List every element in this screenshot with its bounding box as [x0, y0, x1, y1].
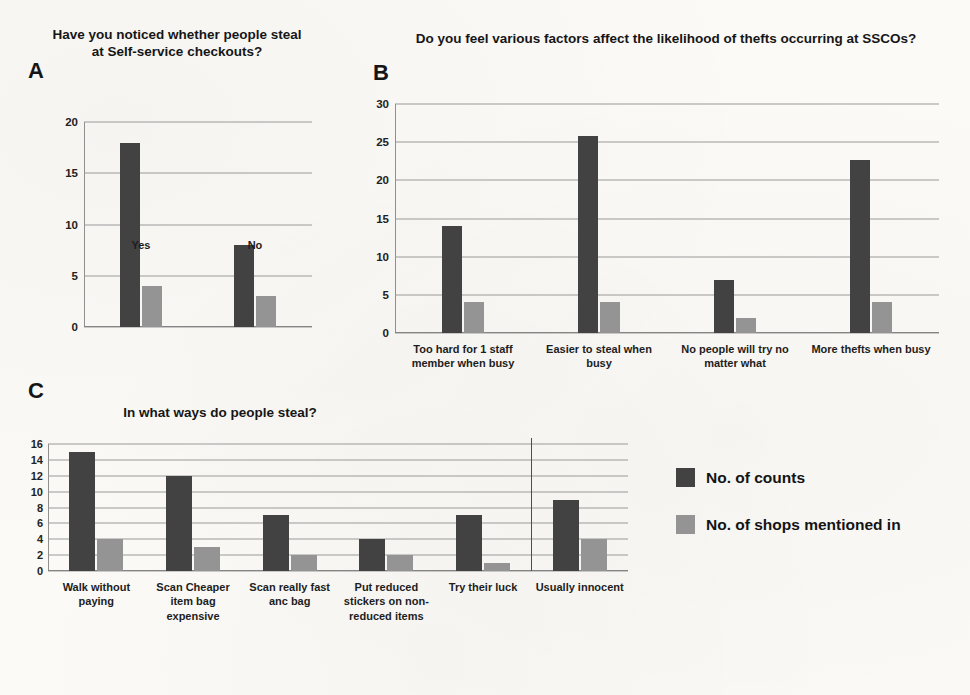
bar-group [241, 444, 338, 571]
chart-panel-b: B Do you feel various factors affect the… [355, 30, 970, 47]
bar-group [435, 444, 532, 571]
bar [736, 318, 756, 333]
category-divider [531, 438, 532, 571]
bar [714, 280, 734, 333]
panel-a-plot-area: 05101520 [84, 122, 312, 327]
y-axis-tick-label: 15 [376, 213, 395, 225]
legend-label: No. of counts [706, 469, 805, 487]
bar-group [531, 444, 628, 571]
chart-panel-c: C In what ways do people steal? 02468101… [0, 378, 700, 421]
panel-c-plot-area: 0246810121416 [48, 444, 628, 571]
bar-group [84, 122, 198, 327]
bar [600, 302, 620, 333]
bar [142, 286, 162, 327]
y-axis-tick-label: 10 [376, 251, 395, 263]
y-axis-tick-label: 2 [37, 549, 48, 561]
panel-letter-a: A [28, 58, 44, 84]
bar-group [48, 444, 145, 571]
bar [166, 476, 192, 571]
y-axis-tick-label: 10 [31, 486, 48, 498]
bar [194, 547, 220, 571]
x-axis-tick-label: Try their luck [435, 580, 532, 623]
chart-panel-a: A Have you noticed whether people steal … [0, 26, 350, 61]
x-axis-tick-label: Put reduced stickers on non-reduced item… [338, 580, 435, 623]
bar [872, 302, 892, 333]
bar [578, 136, 598, 333]
x-axis-tick-label: No people will try no matter what [667, 342, 803, 371]
x-axis-tick-label: Too hard for 1 staff member when busy [395, 342, 531, 371]
panel-letter-c: C [28, 378, 44, 404]
panel-a-bars [84, 122, 312, 327]
y-axis-tick-label: 12 [31, 470, 48, 482]
y-axis-tick-label: 5 [383, 289, 395, 301]
bar [442, 226, 462, 333]
x-axis-tick-label: Walk without paying [48, 580, 145, 623]
y-axis-tick-label: 25 [376, 136, 395, 148]
y-axis-tick-label: 6 [37, 517, 48, 529]
legend-swatch-dark [676, 468, 695, 487]
bar [120, 143, 140, 328]
legend-item: No. of shops mentioned in [676, 515, 966, 534]
bar-group [531, 104, 667, 333]
bar [97, 539, 123, 571]
bar [359, 539, 385, 571]
y-axis-tick-label: 0 [37, 565, 48, 577]
panel-a-title: Have you noticed whether people steal at… [46, 26, 308, 61]
y-axis-tick-label: 16 [31, 438, 48, 450]
chart-legend: No. of countsNo. of shops mentioned in [676, 468, 966, 562]
legend-label: No. of shops mentioned in [706, 516, 901, 534]
bar [581, 539, 607, 571]
y-axis-tick-label: 4 [37, 533, 48, 545]
y-axis-tick-label: 8 [37, 502, 48, 514]
x-axis-tick-label: Scan Cheaper item bag expensive [145, 580, 242, 623]
bar-group [338, 444, 435, 571]
y-axis-tick-label: 14 [31, 454, 48, 466]
x-axis-tick-label: More thefts when busy [803, 342, 939, 371]
panel-letter-b: B [373, 60, 389, 86]
bar [553, 500, 579, 571]
x-axis-tick-label: Scan really fast anc bag [241, 580, 338, 623]
bar [464, 302, 484, 333]
y-axis-tick-label: 20 [65, 116, 84, 128]
y-axis-tick-label: 0 [72, 321, 84, 333]
y-axis-tick-label: 0 [383, 327, 395, 339]
panel-b-bars [395, 104, 939, 333]
panel-c-title: In what ways do people steal? [60, 404, 380, 421]
x-axis-tick-label: Usually innocent [531, 580, 628, 623]
panel-b-x-labels: Too hard for 1 staff member when busyEas… [395, 342, 939, 371]
bar-group [145, 444, 242, 571]
panel-c-x-labels: Walk without payingScan Cheaper item bag… [48, 580, 628, 623]
panel-b-plot-area: 051015202530 [395, 104, 939, 333]
bar [456, 515, 482, 571]
x-axis-tick-label: Easier to steal when busy [531, 342, 667, 371]
legend-swatch-light [676, 515, 695, 534]
bar [387, 555, 413, 571]
x-axis-tick-label: No [198, 238, 312, 252]
bar [256, 296, 276, 327]
legend-item: No. of counts [676, 468, 966, 487]
y-axis-tick-label: 10 [65, 219, 84, 231]
panel-c-bars [48, 444, 628, 571]
bar [69, 452, 95, 571]
bar [484, 563, 510, 571]
y-axis-tick-label: 5 [72, 270, 84, 282]
bar-group [198, 122, 312, 327]
bar [291, 555, 317, 571]
bar-group [803, 104, 939, 333]
bar [234, 245, 254, 327]
bar [263, 515, 289, 571]
y-axis-tick-label: 15 [65, 167, 84, 179]
y-axis-tick-label: 30 [376, 98, 395, 110]
bar-group [395, 104, 531, 333]
panel-a-x-labels: YesNo [84, 238, 312, 252]
bar [850, 160, 870, 333]
bar-group [667, 104, 803, 333]
panel-b-title: Do you feel various factors affect the l… [411, 30, 921, 47]
y-axis-tick-label: 20 [376, 174, 395, 186]
x-axis-tick-label: Yes [84, 238, 198, 252]
